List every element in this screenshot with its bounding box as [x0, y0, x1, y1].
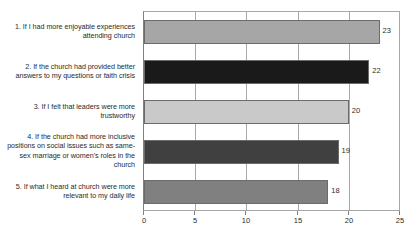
value-label: 20	[352, 106, 360, 115]
bar	[144, 140, 339, 164]
x-tick-mark	[348, 211, 349, 215]
bar-series	[144, 12, 399, 210]
x-tick-label: 0	[142, 216, 146, 225]
bar	[144, 60, 369, 84]
x-tick-label: 25	[396, 216, 404, 225]
bar-chart: 1. If I had more enjoyable experiences a…	[0, 0, 418, 241]
plot-area	[143, 11, 400, 211]
bar	[144, 20, 380, 44]
x-tick-label: 15	[294, 216, 302, 225]
value-label: 22	[372, 66, 380, 75]
category-axis-labels: 1. If I had more enjoyable experiences a…	[0, 11, 139, 211]
category-label: 3. If I felt that leaders were more trus…	[0, 102, 135, 121]
x-tick-mark	[194, 211, 195, 215]
bar	[144, 180, 328, 204]
x-tick-mark	[143, 211, 144, 215]
x-tick-mark	[399, 211, 400, 215]
value-label: 19	[342, 146, 350, 155]
value-label: 23	[383, 26, 391, 35]
x-tick-label: 10	[242, 216, 250, 225]
x-tick-label: 20	[345, 216, 353, 225]
x-tick-mark	[297, 211, 298, 215]
value-label: 18	[331, 186, 339, 195]
x-axis: 0 5 10 15 20 25	[143, 211, 400, 241]
x-tick-label: 5	[193, 216, 197, 225]
category-label: 1. If I had more enjoyable experiences a…	[0, 22, 135, 41]
category-label: 4. If the church had more inclusive posi…	[0, 132, 135, 170]
category-label: 5. If what I heard at church were more r…	[0, 182, 135, 201]
category-label: 2. If the church had provided better ans…	[0, 62, 135, 81]
x-tick-mark	[245, 211, 246, 215]
bar	[144, 100, 349, 124]
